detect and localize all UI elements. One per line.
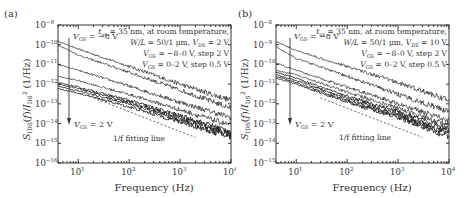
annotation-line-4: VGS = 0–2 V, step 0.5 V	[142, 60, 229, 70]
x-axis-label: Frequency (Hz)	[115, 182, 194, 193]
x-tick-label: 103	[390, 166, 405, 177]
annotation-line-2: W/L = 50/1 μm, VDS = 2 V	[130, 38, 229, 48]
annotation-line-2: W/L = 50/1 μm, VDS = 10 V	[343, 38, 447, 48]
x-tick-label: 101	[70, 166, 84, 177]
annotation-line-3: VGS = −8–0 V, step 2 V	[361, 49, 447, 59]
annotation-line-4: VGS = 0–2 V, step 0.5 V	[360, 60, 447, 70]
y-tick-label: 10−9	[253, 39, 272, 50]
chart-b: (b)10−810−910−1010−1110−1210−1310−1410−1…	[236, 0, 472, 198]
fit-line-label: 1/f fitting line	[339, 133, 392, 142]
y-tick-label: 10−15	[253, 157, 276, 168]
x-tick-label: 104	[441, 166, 456, 177]
fit-line-label: 1/f fitting line	[113, 134, 166, 143]
panel-label: (a)	[4, 8, 18, 19]
noise-curve	[58, 88, 231, 139]
y-tick-label: 10−15	[35, 137, 58, 148]
panel-a: (a)10−910−1010−1110−1210−1310−1410−1510−…	[0, 0, 236, 198]
chart-a: (a)10−910−1010−1110−1210−1310−1410−1510−…	[0, 0, 236, 198]
y-tick-label: 10−9	[35, 19, 54, 30]
y-tick-label: 10−16	[35, 157, 58, 168]
y-tick-label: 10−12	[35, 78, 57, 89]
y-tick-label: 10−14	[253, 137, 276, 148]
annotation-line-1: tox = 35 nm, at room temperature,	[316, 27, 447, 37]
y-axis-label: SIDS(f)/IDS2 (1/Hz)	[21, 59, 33, 140]
panel-b: (b)10−810−910−1010−1110−1210−1310−1410−1…	[236, 0, 472, 198]
noise-curve	[276, 70, 449, 126]
noise-curve	[58, 76, 231, 125]
y-tick-label: 10−13	[35, 98, 58, 109]
x-axis-label: Frequency (Hz)	[333, 182, 412, 193]
y-tick-label: 10−13	[253, 118, 276, 129]
y-tick-label: 10−8	[253, 19, 272, 30]
x-tick-label: 101	[288, 166, 302, 177]
vgs-bottom-label: VGS = 2 V	[295, 120, 334, 130]
x-tick-label: 102	[121, 166, 135, 177]
x-tick-label: 104	[223, 166, 236, 177]
x-tick-label: 103	[172, 166, 187, 177]
panel-label: (b)	[238, 8, 252, 19]
annotation-line-3: VGS = −8–0 V, step 2 V	[143, 49, 229, 59]
x-tick-label: 102	[339, 166, 353, 177]
y-tick-label: 10−11	[253, 78, 275, 89]
y-tick-label: 10−14	[35, 118, 58, 129]
y-tick-label: 10−10	[253, 58, 276, 69]
y-tick-label: 10−10	[35, 39, 58, 50]
y-axis-label: SIDS(f)/IDS2 (1/Hz)	[239, 59, 251, 140]
y-tick-label: 10−12	[253, 98, 275, 109]
vgs-bottom-label: VGS = 2 V	[74, 120, 113, 130]
y-tick-label: 10−11	[35, 58, 57, 69]
annotation-line-1: tox = 35 nm, at room temperature,	[98, 27, 229, 37]
